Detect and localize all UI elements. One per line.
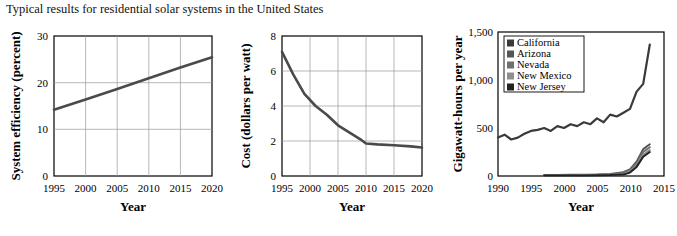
x-tick-1995: 1995 [271, 182, 294, 194]
legend-swatch-arizona [507, 51, 514, 58]
y-tick-1000: 1,000 [468, 74, 493, 86]
legend-label-california: California [517, 37, 560, 48]
y-tick-30: 30 [37, 30, 49, 42]
chart-panel-efficiency: 0 10 20 30 1995 2000 2005 2010 2015 2020… [0, 22, 232, 232]
legend: California Arizona Nevada New Mexico New… [504, 36, 584, 92]
x-tick-1990: 1990 [487, 182, 510, 194]
legend-label-new-mexico: New Mexico [517, 70, 572, 81]
y-tick-0: 0 [43, 170, 49, 182]
x-tick-2005: 2005 [327, 182, 350, 194]
chart-panel-cost: 0 2 4 6 8 1995 2000 2005 2010 2015 2020 … [232, 22, 436, 232]
y-tick-20: 20 [37, 77, 49, 89]
legend-label-new-jersey: New Jersey [517, 81, 566, 92]
x-tick-2015: 2015 [653, 182, 676, 194]
x-tick-2010: 2010 [138, 182, 161, 194]
legend-swatch-new-mexico [507, 73, 514, 80]
legend-label-arizona: Arizona [517, 48, 551, 59]
x-tick-2015: 2015 [169, 182, 192, 194]
y-tick-10: 10 [37, 123, 49, 135]
x-tick-2000: 2000 [553, 182, 576, 194]
efficiency-plot: 0 10 20 30 1995 2000 2005 2010 2015 2020… [0, 22, 232, 232]
x-tick-1995: 1995 [520, 182, 543, 194]
y-tick-4: 4 [271, 100, 277, 112]
y-tick-6: 6 [271, 65, 277, 77]
generation-plot: California Arizona Nevada New Mexico New… [436, 22, 677, 232]
legend-label-nevada: Nevada [517, 59, 549, 70]
x-axis-title: Year [339, 199, 365, 214]
x-tick-2005: 2005 [587, 182, 610, 194]
x-tick-2000: 2000 [75, 182, 98, 194]
y-tick-8: 8 [271, 30, 277, 42]
legend-swatch-new-jersey [507, 84, 514, 91]
legend-swatch-california [507, 40, 514, 47]
figure-caption: Typical results for residential solar sy… [6, 2, 323, 17]
y-axis-title: Cost (dollars per watt) [238, 43, 253, 168]
y-tick-500: 500 [477, 122, 494, 134]
y-tick-2: 2 [271, 135, 277, 147]
chart-panel-generation: California Arizona Nevada New Mexico New… [436, 22, 677, 232]
x-tick-2020: 2020 [411, 182, 434, 194]
y-axis-title: System efficiency (percent) [8, 31, 23, 180]
x-tick-2010: 2010 [620, 182, 643, 194]
y-tick-0: 0 [488, 170, 494, 182]
x-axis-title: Year [568, 199, 594, 214]
x-tick-2005: 2005 [106, 182, 129, 194]
y-tick-1500: 1,500 [468, 26, 493, 38]
x-tick-2015: 2015 [383, 182, 406, 194]
y-axis-title: Gigawatt-hours per year [450, 35, 465, 172]
legend-swatch-nevada [507, 62, 514, 69]
x-tick-2000: 2000 [299, 182, 322, 194]
y-tick-0: 0 [271, 170, 277, 182]
plot-frame [54, 36, 212, 176]
x-axis-title: Year [120, 199, 146, 214]
cost-plot: 0 2 4 6 8 1995 2000 2005 2010 2015 2020 … [232, 22, 436, 232]
x-tick-2020: 2020 [201, 182, 224, 194]
x-tick-2010: 2010 [355, 182, 378, 194]
x-tick-1995: 1995 [43, 182, 66, 194]
